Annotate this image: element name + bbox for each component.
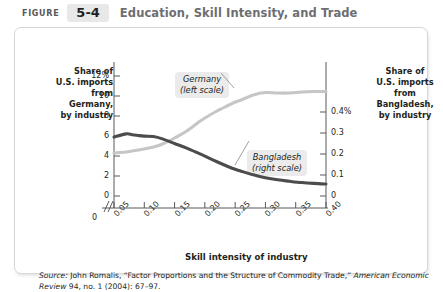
figure-title: Education, Skill Intensity, and Trade	[120, 6, 358, 20]
chart-axes	[102, 62, 328, 212]
series-line-germany	[114, 91, 326, 153]
figure-panel: Share ofU.S. importsfromGermany,by indus…	[14, 27, 428, 274]
source-text-1: John Romalis, “Factor Proportions and th…	[68, 271, 354, 280]
germany-leader-line	[221, 73, 234, 88]
source-lead: Source:	[39, 271, 68, 280]
chart-plot	[15, 28, 429, 275]
source-note: Source: John Romalis, “Factor Proportion…	[39, 271, 429, 292]
bangladesh-leader-line	[235, 141, 249, 165]
source-text-2: 94, no. 1 (2004): 67–97.	[66, 282, 160, 291]
callout-leader-lines	[221, 73, 249, 165]
figure-label: FIGURE	[22, 9, 59, 18]
series-line-bangladesh	[114, 134, 326, 184]
figure-header: FIGURE 5-4 Education, Skill Intensity, a…	[0, 0, 443, 26]
figure-number-badge: 5-4	[67, 4, 109, 22]
chart-series	[114, 91, 326, 184]
